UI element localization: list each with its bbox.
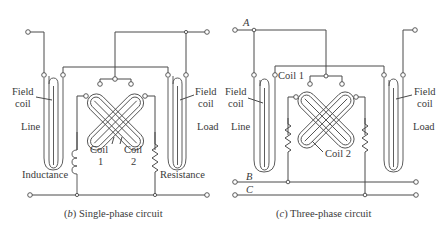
coil1-lead <box>288 97 296 135</box>
label-inductance: Inductance <box>22 169 68 180</box>
label-coil2: Coil 2 <box>325 148 351 159</box>
label-field-coil-right-2: coil <box>198 98 214 109</box>
label-resistance: Resistance <box>160 169 205 180</box>
caption-text: Single-phase circuit <box>79 208 163 219</box>
resistance-symbol <box>152 132 158 195</box>
label-phase-c: C <box>246 184 254 195</box>
label-phase-a: A <box>242 17 250 28</box>
supply-wire-top-right <box>115 32 207 79</box>
panel-single-phase: Field coil Field coil Line Load Coil 1 C… <box>12 30 219 220</box>
field-coil-left <box>44 76 63 170</box>
label-field-coil-right: Field <box>414 86 436 97</box>
supply-wire-top-left <box>30 32 44 75</box>
field-coil-right <box>384 78 403 172</box>
label-phase-b: B <box>246 171 253 182</box>
label-line: Line <box>21 121 41 132</box>
label-field-coil-right-2: coil <box>417 98 433 109</box>
resistor-left <box>285 118 291 182</box>
field-coil-right <box>168 76 186 170</box>
label-load: Load <box>413 121 435 132</box>
leader-line <box>312 141 323 152</box>
leader-line <box>248 98 263 103</box>
label-load: Load <box>197 121 219 132</box>
label-field-coil-left: Field <box>225 86 247 97</box>
inductance-symbol <box>72 132 77 195</box>
label-field-coil-right: Field <box>195 86 217 97</box>
label-line: Line <box>231 121 251 132</box>
label-coil2: Coil <box>124 144 142 155</box>
label-field-coil-left-2: coil <box>15 98 31 109</box>
caption-text: Three-phase circuit <box>290 208 371 219</box>
label-field-coil-left: Field <box>12 86 34 97</box>
leader-line <box>112 137 122 144</box>
caption-three-phase: (c) Three-phase circuit <box>276 208 372 220</box>
label-coil1: Coil 1 <box>278 70 304 81</box>
label-coil1: Coil <box>90 144 108 155</box>
label-coil2-num: 2 <box>131 156 136 167</box>
moving-coils-crossed <box>294 88 358 152</box>
supply-wire-top-right <box>403 30 415 75</box>
field-coil-left <box>254 78 275 172</box>
power-factor-meter-diagram: Field coil Field coil Line Load Coil 1 C… <box>0 0 448 233</box>
label-coil1-num: 1 <box>98 156 103 167</box>
coil2-lead <box>145 96 155 150</box>
coil1-lead <box>77 96 86 150</box>
label-field-coil-left-2: coil <box>228 98 244 109</box>
panel-three-phase: A B C Field coil Field coil Line Load Co… <box>225 17 436 220</box>
caption-single-phase: (b) Single-phase circuit <box>64 208 163 220</box>
